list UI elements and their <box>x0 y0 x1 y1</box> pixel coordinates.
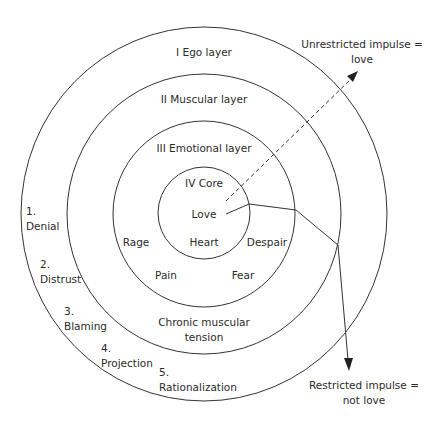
unrestricted-arrowhead-icon <box>347 71 358 82</box>
label-core: IV Core <box>185 177 223 189</box>
label-chronic-tension-line2: tension <box>185 331 224 343</box>
label-rage: Rage <box>123 236 150 248</box>
defense-label: Denial <box>26 220 59 232</box>
restricted-arrowhead-icon <box>344 358 353 371</box>
defense-label: Blaming <box>64 320 107 332</box>
personality-layers-diagram: I Ego layer II Muscular layer III Emotio… <box>0 0 438 421</box>
defense-label: Distrust <box>40 273 81 285</box>
defense-projection: 4. Projection <box>101 342 153 369</box>
defense-number: 1. <box>26 205 36 217</box>
label-heart: Heart <box>189 236 218 248</box>
restricted-impulse-path <box>226 204 348 360</box>
label-despair: Despair <box>247 236 288 248</box>
label-muscular-layer: II Muscular layer <box>161 93 248 105</box>
label-fear: Fear <box>232 269 255 281</box>
defense-number: 2. <box>40 258 50 270</box>
defense-denial: 1. Denial <box>26 205 59 232</box>
label-restricted-line2: not love <box>343 394 386 406</box>
label-chronic-tension-line1: Chronic muscular <box>158 316 250 328</box>
defense-rationalization: 5. Rationalization <box>159 366 237 393</box>
label-love: Love <box>192 208 217 220</box>
defense-number: 5. <box>159 366 169 378</box>
defense-blaming: 3. Blaming <box>64 305 107 332</box>
label-unrestricted-line2: love <box>351 53 373 65</box>
label-unrestricted-line1: Unrestricted impulse = <box>301 38 423 50</box>
defense-label: Projection <box>101 357 153 369</box>
label-restricted-line1: Restricted impulse = <box>309 379 419 391</box>
label-emotional-layer: III Emotional layer <box>156 142 252 154</box>
defense-number: 3. <box>64 305 74 317</box>
defense-number: 4. <box>101 342 111 354</box>
label-ego-layer: I Ego layer <box>176 46 233 58</box>
defense-label: Rationalization <box>159 381 237 393</box>
label-pain: Pain <box>155 269 177 281</box>
